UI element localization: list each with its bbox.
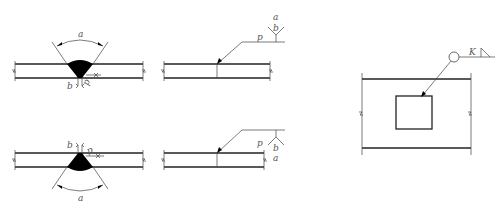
angle-label: a — [273, 153, 278, 163]
gap-label: b — [67, 81, 73, 91]
angle-label: a — [78, 193, 83, 203]
break-mark-icon — [263, 159, 267, 161]
break-mark-icon — [359, 112, 363, 115]
arrow-head-icon — [217, 58, 222, 64]
angle-arc — [57, 40, 103, 46]
root-face-label: p — [257, 32, 263, 42]
plate — [161, 150, 267, 170]
break-mark-icon — [12, 70, 16, 72]
gap-label: b — [273, 143, 279, 153]
figure-groove-weld-top-left: a b p — [12, 29, 146, 91]
angle-label: a — [78, 29, 83, 39]
gap-label: b — [273, 23, 279, 33]
break-mark-icon — [161, 70, 165, 72]
root-face-label: p — [85, 144, 94, 155]
arrow-head-icon — [217, 147, 222, 153]
weld-diagram: a b p p b a — [0, 0, 501, 204]
angle-arc — [57, 185, 103, 191]
square-part — [396, 96, 432, 129]
leg-size-label: K — [468, 47, 477, 57]
break-mark-icon — [142, 159, 146, 161]
gap-label: b — [67, 140, 73, 150]
figure-groove-weld-bottom-left: a b p — [12, 140, 146, 203]
angle-label: a — [273, 12, 278, 22]
break-mark-icon — [468, 112, 472, 115]
figure-fillet-weld-all-around: K — [359, 47, 495, 155]
figure-weld-symbol-top-middle: p b a — [161, 12, 285, 81]
break-mark-icon — [142, 70, 146, 72]
break-mark-icon — [269, 70, 273, 72]
figure-weld-symbol-bottom-middle: p b a — [161, 130, 285, 170]
gap-arrows-icon — [76, 143, 84, 147]
break-mark-icon — [161, 159, 165, 161]
fillet-weld-symbol-icon — [481, 48, 490, 57]
root-face-label: p — [257, 138, 263, 148]
weld-all-around-circle-icon — [449, 52, 459, 62]
break-mark-icon — [12, 159, 16, 161]
